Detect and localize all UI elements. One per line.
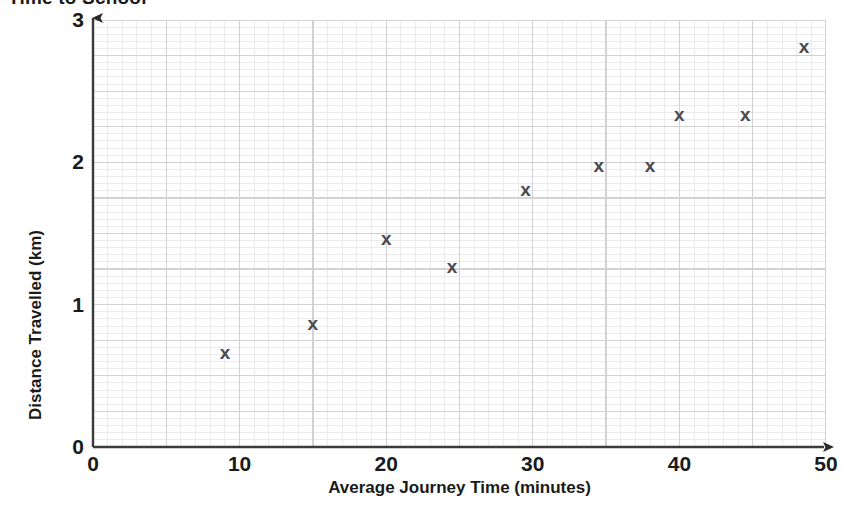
x-tick-label: 40 xyxy=(668,452,691,476)
x-axis-title: Average Journey Time (minutes) xyxy=(93,478,826,498)
y-axis-title: Distance Travelled (km) xyxy=(26,230,46,420)
x-tick-label: 0 xyxy=(87,452,99,476)
x-tick-label: 30 xyxy=(521,452,544,476)
y-tick-label: 0 xyxy=(62,435,84,459)
x-tick-label: 50 xyxy=(814,452,837,476)
data-point-marker: x xyxy=(520,180,531,199)
data-point-marker: x xyxy=(593,156,604,175)
y-tick-label: 1 xyxy=(62,293,84,317)
data-point-marker: x xyxy=(308,314,319,333)
scatter-chart: Time to School xxxxxxxxxx 01020304050 01… xyxy=(0,0,844,505)
x-tick-label: 10 xyxy=(228,452,251,476)
data-point-marker: x xyxy=(740,104,751,123)
data-point-marker: x xyxy=(645,156,656,175)
plot-area: xxxxxxxxxx xyxy=(93,20,826,447)
data-point-marker: x xyxy=(220,342,231,361)
y-tick-label: 2 xyxy=(62,150,84,174)
data-point-marker: x xyxy=(799,36,810,55)
data-point-marker: x xyxy=(674,104,685,123)
x-tick-label: 20 xyxy=(375,452,398,476)
gridlines xyxy=(93,20,826,447)
data-point-marker: x xyxy=(447,257,458,276)
y-tick-label: 3 xyxy=(62,8,84,32)
data-point-marker: x xyxy=(381,228,392,247)
